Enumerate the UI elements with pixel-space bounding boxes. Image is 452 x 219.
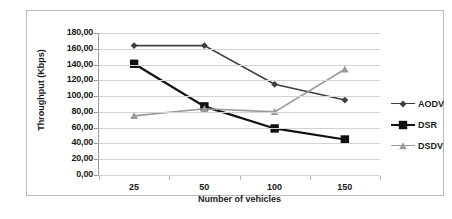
y-axis-tick-label: 20,00	[47, 153, 93, 163]
x-axis-tick-mark	[380, 176, 381, 180]
legend-label: DSDV	[415, 141, 443, 151]
x-axis-tick-mark	[99, 176, 100, 180]
legend-item-aodv[interactable]: AODV	[391, 93, 452, 114]
gridline	[99, 128, 380, 129]
legend-swatch	[391, 98, 415, 110]
x-axis-title: Number of vehicles	[99, 194, 380, 204]
y-axis-tick-mark	[94, 128, 99, 129]
gridline	[99, 80, 380, 81]
data-point-marker	[399, 142, 407, 149]
data-point-marker	[271, 81, 278, 88]
legend-marker-diamond-icon	[395, 98, 411, 110]
y-axis-tick-label: 0,00	[47, 169, 93, 179]
y-axis-tick-mark	[94, 80, 99, 81]
legend-item-dsr[interactable]: DSR	[391, 114, 452, 135]
gridline	[99, 112, 380, 113]
data-point-marker	[341, 135, 349, 143]
y-axis-tick-labels: 180,00160,00140,00120,00100,0080,0060,00…	[45, 11, 93, 197]
series-line	[134, 46, 345, 100]
series-dsr	[130, 60, 349, 144]
y-axis-tick-label: 100,00	[47, 90, 93, 100]
y-axis-tick-label: 120,00	[47, 74, 93, 84]
y-axis-tick-label: 160,00	[47, 43, 93, 53]
x-axis-tick-label: 100	[255, 182, 295, 192]
chart-plot-frame: 180,00160,00140,00120,00100,0080,0060,00…	[26, 10, 444, 196]
x-axis-tick-mark	[240, 176, 241, 180]
legend-label: DSR	[415, 120, 437, 130]
data-point-marker	[341, 65, 349, 72]
y-axis-tick-mark	[94, 159, 99, 160]
y-axis-tick-mark	[94, 143, 99, 144]
data-point-marker	[341, 97, 348, 104]
x-axis-tick-mark	[169, 176, 170, 180]
x-axis-tick-label: 150	[325, 182, 365, 192]
series-lines	[99, 33, 380, 175]
chart-figure: 180,00160,00140,00120,00100,0080,0060,00…	[0, 0, 452, 219]
y-axis-tick-mark	[94, 33, 99, 34]
legend-marker-triangle-icon	[395, 140, 411, 152]
data-point-marker	[400, 100, 407, 107]
y-axis-tick-label: 40,00	[47, 137, 93, 147]
gridline	[99, 49, 380, 50]
y-axis-tick-label: 80,00	[47, 106, 93, 116]
legend-swatch	[391, 119, 415, 131]
y-axis-tick-label: 60,00	[47, 122, 93, 132]
plot-area	[99, 33, 380, 175]
y-axis-tick-mark	[94, 65, 99, 66]
chart-legend: AODVDSRDSDV	[391, 93, 452, 156]
legend-item-dsdv[interactable]: DSDV	[391, 135, 452, 156]
data-point-marker	[399, 120, 407, 128]
gridline	[99, 96, 380, 97]
legend-swatch	[391, 140, 415, 152]
x-axis-tick-label: 50	[184, 182, 224, 192]
y-axis-tick-label: 140,00	[47, 59, 93, 69]
x-axis-tick-mark	[310, 176, 311, 180]
gridline	[99, 65, 380, 66]
gridline	[99, 33, 380, 34]
gridline	[99, 159, 380, 160]
y-axis-tick-mark	[94, 49, 99, 50]
legend-marker-square-icon	[395, 119, 411, 131]
x-axis-tick-label: 25	[114, 182, 154, 192]
y-axis-tick-mark	[94, 96, 99, 97]
legend-label: AODV	[415, 99, 444, 109]
y-axis-tick-label: 180,00	[47, 27, 93, 37]
series-aodv	[131, 42, 349, 103]
y-axis-title: Throughput (Kbps)	[36, 30, 46, 150]
gridline	[99, 143, 380, 144]
y-axis-tick-mark	[94, 112, 99, 113]
